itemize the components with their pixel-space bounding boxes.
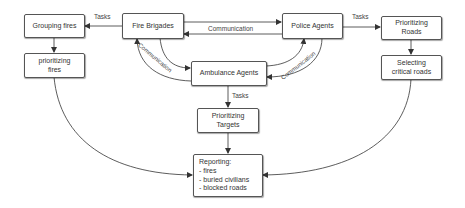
node-grouping-fires: Grouping fires	[24, 14, 85, 38]
node-prioritizing-roads: Prioritizing Roads	[381, 16, 442, 40]
node-label: Prioritizing Targets	[207, 112, 249, 130]
node-label: Grouping fires	[33, 22, 77, 31]
node-prioritizing-fires: prioritizing fires	[24, 53, 85, 78]
node-fire-brigades: Fire Brigades	[122, 13, 184, 39]
reporting-item: - blocked roads	[199, 184, 247, 193]
node-label: prioritizing fires	[35, 57, 75, 75]
edge-label-tasks-police: Tasks	[352, 13, 369, 20]
node-label: Fire Brigades	[132, 22, 174, 31]
node-label: Prioritizing Roads	[391, 19, 433, 37]
edge-label-communication-top: Communication	[208, 25, 253, 32]
node-reporting: Reporting: - fires - buried civilians - …	[193, 154, 263, 197]
node-selecting-critical-roads: Selecting critical roads	[381, 55, 442, 80]
reporting-title: Reporting:	[199, 158, 231, 167]
node-ambulance-agents: Ambulance Agents	[191, 61, 267, 86]
edge-label-tasks-fire: Tasks	[94, 13, 111, 20]
node-label: Police Agents	[291, 22, 333, 31]
reporting-item: - fires	[199, 167, 217, 176]
node-police-agents: Police Agents	[282, 13, 343, 39]
reporting-item: - buried civilians	[199, 176, 249, 185]
node-label: Ambulance Agents	[200, 69, 258, 78]
node-prioritizing-targets: Prioritizing Targets	[197, 108, 259, 133]
node-label: Selecting critical roads	[387, 59, 437, 77]
edge-label-tasks-ambulance: Tasks	[232, 92, 249, 99]
